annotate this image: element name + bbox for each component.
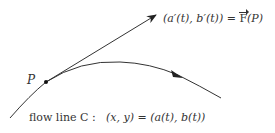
flow-curve bbox=[10, 62, 221, 118]
vector-label-lhs: (a′(t), b′(t)) = bbox=[163, 12, 239, 25]
flow-line-equation: (x, y) = (a(t), b(t)) bbox=[106, 111, 205, 124]
flow-line-label: flow line C : bbox=[29, 111, 96, 124]
vector-label-rhs: (P) bbox=[247, 12, 263, 25]
point-p-label: P bbox=[27, 73, 35, 87]
vector-f-symbol: F bbox=[239, 12, 247, 25]
point-p-dot bbox=[44, 80, 48, 84]
curve-direction-arrow-icon bbox=[171, 70, 183, 78]
tangent-vector-arrow bbox=[46, 15, 156, 82]
flow-line-diagram: (a′(t), b′(t)) = F(P) P flow line C : (x… bbox=[0, 0, 275, 133]
vector-field-label: (a′(t), b′(t)) = F(P) bbox=[163, 12, 263, 25]
